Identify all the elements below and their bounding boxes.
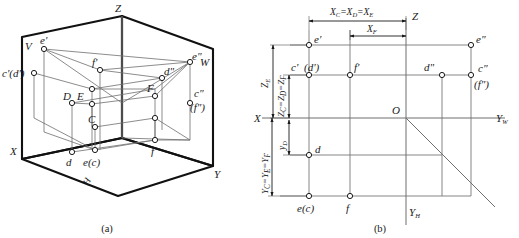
figure-container: Z X Y V W H e' f' c'(d') D E C F d e(c) … — [0, 0, 519, 238]
axes-b — [262, 18, 505, 225]
label-f-a: f — [151, 145, 156, 157]
marker-e-prime-a — [41, 46, 46, 51]
panel-b: XC=XD=XE XF ZE ZC=ZD=ZF yD — [253, 7, 508, 235]
marker-c-dprime-b — [468, 72, 473, 77]
label-E-a: E — [76, 90, 84, 102]
panel-a: Z X Y V W H e' f' c'(d') D E C F d e(c) … — [2, 2, 222, 235]
projection-lines-b — [280, 30, 471, 196]
svg-text:YW: YW — [496, 112, 508, 125]
label-Yw-b: YW — [496, 112, 508, 125]
label-ec-a: e(c) — [83, 156, 100, 169]
dim-label-x-cde: XC=XD=XE — [329, 7, 373, 18]
marker-d-dprime-b — [439, 72, 444, 77]
label-f-prime-b: f' — [354, 61, 360, 73]
svg-text:XC=XD=XE: XC=XD=XE — [329, 7, 373, 18]
label-d-dprime-a: d" — [164, 65, 175, 77]
marker-mid-a — [89, 86, 94, 91]
label-C-a: C — [88, 113, 96, 125]
label-Z-b: Z — [412, 10, 419, 22]
dim-label-z-cdf: ZC=ZD=ZF — [276, 75, 288, 117]
dimension-arrows-b — [272, 21, 406, 196]
caption-b: (b) — [374, 223, 387, 235]
label-f-prime-a: f' — [92, 56, 98, 68]
marker-E-a — [89, 101, 94, 106]
point-markers-b — [306, 42, 473, 198]
label-d-b: d — [315, 143, 321, 155]
construction-lines-a — [34, 16, 190, 152]
label-Y-a: Y — [214, 168, 222, 180]
marker-aux-a — [152, 115, 157, 120]
label-f-dprime-b: (f") — [474, 78, 489, 91]
marker-ec-a — [92, 147, 97, 152]
label-X-a: X — [9, 145, 18, 157]
label-Yh-b: YH — [409, 206, 420, 219]
label-e-dprime-b: e" — [476, 33, 486, 45]
label-e-dprime-a: e" — [192, 50, 202, 62]
marker-e-dprime-b — [468, 42, 473, 47]
label-e-prime-b: e' — [314, 33, 322, 45]
label-f-b: f — [346, 202, 351, 214]
svg-text:YC=YE=YF: YC=YE=YF — [260, 153, 272, 194]
label-d-a: d — [66, 156, 72, 168]
marker-cd-prime-b — [306, 72, 311, 77]
marker-f-b — [347, 193, 352, 198]
label-Z-a: Z — [115, 2, 122, 14]
marker-e-prime-b — [306, 42, 311, 47]
label-O-b: O — [392, 104, 400, 116]
marker-f-prime-a — [97, 67, 102, 72]
svg-text:YH: YH — [409, 206, 420, 219]
label-cd-prime-a: c'(d') — [2, 67, 25, 80]
svg-text:ZC=ZD=ZF: ZC=ZD=ZF — [276, 75, 288, 117]
svg-text:XF: XF — [366, 24, 378, 35]
dim-label-y-d: yD — [277, 141, 288, 151]
marker-C-a — [92, 124, 97, 129]
marker-ec-b — [306, 193, 311, 198]
dim-label-x-f: XF — [366, 24, 378, 35]
dim-label-z-e: ZE — [260, 79, 271, 88]
marker-cd-prime-a — [31, 70, 36, 75]
dim-label-y-cef: YC=YE=YF — [260, 153, 272, 194]
label-e-prime-a: e' — [40, 34, 48, 46]
label-c-dprime-b: c" — [478, 62, 488, 74]
marker-d-a — [69, 149, 74, 154]
marker-d-b — [306, 152, 311, 157]
label-X-b: X — [253, 112, 262, 124]
axis-45 — [406, 118, 495, 207]
marker-f-a — [152, 137, 157, 142]
caption-a: (a) — [101, 223, 113, 235]
point-markers-a — [31, 46, 192, 154]
label-d-dprime-b: d" — [424, 61, 435, 73]
svg-text:ZE: ZE — [260, 79, 271, 88]
technical-drawing-svg: Z X Y V W H e' f' c'(d') D E C F d e(c) … — [0, 0, 519, 238]
label-f-dprime-a: (f") — [190, 101, 205, 114]
svg-text:yD: yD — [277, 141, 288, 151]
label-ec-b: e(c) — [297, 202, 314, 215]
label-c-dprime-a: c" — [194, 87, 204, 99]
label-F-a: F — [146, 82, 154, 94]
marker-F-a — [152, 93, 157, 98]
projection-box-outline — [22, 16, 213, 196]
label-V-plane-a: V — [25, 40, 33, 52]
label-d-prime-b: (d') — [304, 61, 320, 74]
label-c-prime-b: c' — [291, 61, 299, 73]
marker-f-prime-b — [347, 72, 352, 77]
label-D-a: D — [62, 90, 71, 102]
